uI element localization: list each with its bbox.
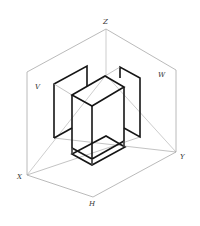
w-plane-top-edge — [106, 29, 176, 70]
y-axis — [106, 75, 176, 152]
label-h: H — [88, 200, 96, 208]
h-plane-footprint — [72, 136, 125, 165]
h-plane-right-edge — [93, 152, 176, 197]
label-y: Y — [180, 153, 186, 161]
label-z: Z — [102, 18, 108, 26]
h-plane-left-edge — [27, 175, 93, 197]
projection-frame — [27, 29, 176, 197]
label-x: X — [16, 173, 23, 181]
right-panel — [105, 67, 140, 137]
label-w: W — [158, 71, 166, 79]
left-panel — [54, 66, 87, 138]
w-plane-floor-line — [27, 137, 140, 175]
three-view-isometric-diagram: Z V W X Y H — [0, 0, 200, 226]
label-v: V — [35, 83, 41, 91]
v-plane-top-edge — [27, 29, 106, 72]
